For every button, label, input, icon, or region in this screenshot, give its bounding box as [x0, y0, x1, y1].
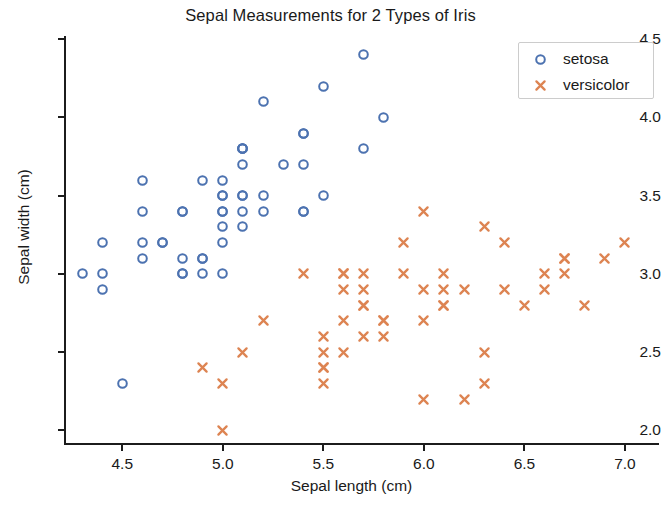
data-point-setosa: [216, 267, 229, 280]
data-point-setosa: [297, 127, 310, 140]
data-point-setosa: [176, 252, 189, 265]
data-point-versicolor: [357, 267, 370, 280]
data-point-versicolor: [478, 220, 491, 233]
data-point-setosa: [216, 236, 229, 249]
data-point-setosa: [176, 205, 189, 218]
data-point-setosa: [297, 205, 310, 218]
data-point-versicolor: [478, 346, 491, 359]
x-axis-label: Sepal length (cm): [66, 477, 637, 495]
data-point-setosa: [136, 236, 149, 249]
x-tick-label: 7.0: [595, 455, 655, 473]
y-tick-mark: [58, 351, 64, 353]
data-point-versicolor: [337, 346, 350, 359]
data-point-versicolor: [458, 283, 471, 296]
data-point-versicolor: [558, 267, 571, 280]
data-point-setosa: [257, 95, 270, 108]
y-tick-mark: [58, 429, 64, 431]
data-point-versicolor: [498, 283, 511, 296]
data-point-setosa: [196, 252, 209, 265]
data-point-versicolor: [317, 330, 330, 343]
data-point-versicolor: [337, 314, 350, 327]
data-point-versicolor: [437, 299, 450, 312]
data-point-setosa: [96, 283, 109, 296]
data-point-setosa: [236, 220, 249, 233]
data-point-versicolor: [297, 267, 310, 280]
data-point-setosa: [216, 220, 229, 233]
y-tick-mark: [58, 116, 64, 118]
data-point-setosa: [136, 174, 149, 187]
x-tick-mark: [423, 445, 425, 451]
x-tick-mark: [121, 445, 123, 451]
data-point-setosa: [236, 142, 249, 155]
data-point-setosa: [76, 267, 89, 280]
data-point-setosa: [317, 80, 330, 93]
data-point-versicolor: [216, 377, 229, 390]
data-point-versicolor: [397, 267, 410, 280]
data-point-setosa: [196, 267, 209, 280]
data-point-setosa: [236, 205, 249, 218]
data-point-versicolor: [357, 330, 370, 343]
data-point-setosa: [236, 189, 249, 202]
data-point-versicolor: [558, 252, 571, 265]
y-axis-label: Sepal width (cm): [15, 107, 33, 347]
data-point-versicolor: [437, 267, 450, 280]
legend: setosaversicolor: [518, 42, 654, 99]
data-point-versicolor: [196, 361, 209, 374]
data-point-versicolor: [317, 346, 330, 359]
data-point-setosa: [277, 158, 290, 171]
data-point-setosa: [136, 252, 149, 265]
x-tick-mark: [222, 445, 224, 451]
data-point-setosa: [357, 48, 370, 61]
data-point-setosa: [196, 174, 209, 187]
data-point-setosa: [96, 267, 109, 280]
data-point-versicolor: [518, 299, 531, 312]
legend-item-label: setosa: [563, 50, 609, 68]
data-point-versicolor: [578, 299, 591, 312]
data-point-setosa: [176, 267, 189, 280]
x-axis-line: [64, 443, 659, 445]
data-point-versicolor: [458, 393, 471, 406]
data-point-versicolor: [478, 377, 491, 390]
x-tick-label: 4.5: [92, 455, 152, 473]
data-point-versicolor: [417, 314, 430, 327]
legend-item-setosa: setosa: [519, 46, 655, 72]
x-tick-mark: [523, 445, 525, 451]
data-point-setosa: [257, 189, 270, 202]
cross-marker-icon: [527, 79, 553, 92]
x-tick-mark: [624, 445, 626, 451]
data-point-setosa: [216, 174, 229, 187]
data-point-versicolor: [417, 205, 430, 218]
data-point-setosa: [297, 158, 310, 171]
data-point-versicolor: [538, 267, 551, 280]
data-point-setosa: [236, 158, 249, 171]
data-point-versicolor: [257, 314, 270, 327]
data-point-setosa: [96, 236, 109, 249]
data-point-versicolor: [417, 393, 430, 406]
x-tick-label: 5.0: [193, 455, 253, 473]
scatter-plot-figure: Sepal Measurements for 2 Types of Iris 2…: [0, 0, 661, 506]
data-point-versicolor: [618, 236, 631, 249]
x-tick-label: 5.5: [293, 455, 353, 473]
x-tick-label: 6.0: [394, 455, 454, 473]
data-point-setosa: [377, 111, 390, 124]
data-point-versicolor: [397, 236, 410, 249]
data-point-versicolor: [417, 283, 430, 296]
data-point-versicolor: [538, 283, 551, 296]
data-point-versicolor: [337, 267, 350, 280]
data-point-versicolor: [357, 299, 370, 312]
data-point-versicolor: [437, 283, 450, 296]
data-point-setosa: [257, 205, 270, 218]
data-point-versicolor: [216, 424, 229, 437]
data-point-setosa: [136, 205, 149, 218]
data-point-setosa: [216, 189, 229, 202]
data-point-versicolor: [377, 330, 390, 343]
data-point-versicolor: [236, 346, 249, 359]
data-point-setosa: [156, 236, 169, 249]
data-point-versicolor: [317, 377, 330, 390]
legend-item-label: versicolor: [563, 76, 629, 94]
x-tick-label: 6.5: [494, 455, 554, 473]
y-tick-mark: [58, 38, 64, 40]
data-point-setosa: [357, 142, 370, 155]
data-point-versicolor: [357, 283, 370, 296]
data-point-versicolor: [498, 236, 511, 249]
